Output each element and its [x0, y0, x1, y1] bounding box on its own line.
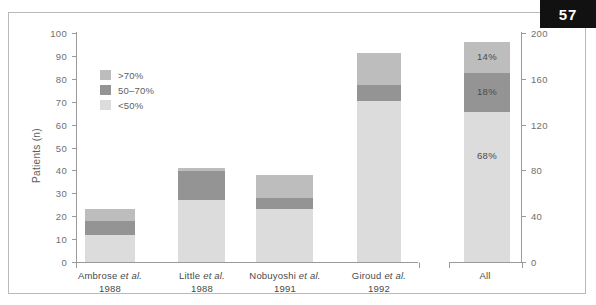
bar-all-seg-mid: 18% — [464, 73, 510, 112]
legend-label-lt50: <50% — [118, 100, 143, 111]
left-axis-line — [76, 32, 77, 263]
y-tick-80 — [72, 79, 76, 80]
bar-nobuyoshi-seg-lt50 — [256, 209, 313, 262]
bar-little — [178, 168, 225, 262]
bar-little-seg-lt50 — [178, 200, 225, 262]
bar-nobuyoshi — [256, 175, 313, 262]
legend-swatch-mid — [100, 85, 111, 95]
chart-page: 57 Patients (n) 100 90 80 70 60 50 40 30… — [0, 0, 596, 305]
legend-item-gt70: >70% — [100, 69, 154, 81]
y-tick-label-70: 70 — [41, 97, 67, 108]
y-axis-label: Patients (n) — [31, 111, 42, 201]
bar-little-seg-mid — [178, 171, 225, 200]
y2-tick-200 — [522, 33, 526, 34]
y-tick-20 — [72, 216, 76, 217]
bar-giroud-seg-mid — [357, 85, 401, 101]
xcat-nobuyoshi-name: Nobuyoshi et al. — [233, 270, 337, 283]
y-tick-50 — [72, 148, 76, 149]
legend-label-gt70: >70% — [118, 70, 143, 81]
legend-label-mid: 50–70% — [118, 85, 154, 96]
y2-tick-120 — [522, 125, 526, 126]
y2-tick-label-40: 40 — [531, 211, 561, 222]
bar-ambrose-seg-lt50 — [85, 235, 135, 262]
bar-all-seg-lt50: 68% — [464, 112, 510, 262]
bar-giroud-seg-lt50 — [357, 101, 401, 262]
y-tick-label-40: 40 — [41, 165, 67, 176]
legend-item-lt50: <50% — [100, 99, 154, 111]
y-tick-40 — [72, 170, 76, 171]
bracket-all — [449, 262, 523, 268]
legend-item-mid: 50–70% — [100, 84, 154, 96]
y-tick-100 — [72, 33, 76, 34]
xcat-nobuyoshi-year: 1991 — [233, 283, 337, 296]
y-tick-label-60: 60 — [41, 120, 67, 131]
y2-tick-40 — [522, 216, 526, 217]
bar-all-label-lt50: 68% — [464, 150, 510, 161]
bar-all: 14% 18% 68% — [464, 42, 510, 262]
bar-giroud — [357, 53, 401, 262]
bar-nobuyoshi-seg-gt70 — [256, 175, 313, 198]
xcat-ambrose: Ambrose et al. 1988 — [60, 270, 160, 295]
right-axis-line — [521, 32, 522, 263]
y-tick-label-10: 10 — [41, 234, 67, 245]
y2-tick-label-200: 200 — [531, 28, 561, 39]
xcat-ambrose-year: 1988 — [60, 283, 160, 296]
legend-swatch-gt70 — [100, 70, 111, 80]
y-tick-label-20: 20 — [41, 211, 67, 222]
bar-giroud-seg-gt70 — [357, 53, 401, 85]
y2-tick-label-160: 160 — [531, 74, 561, 85]
bar-all-label-mid: 18% — [464, 86, 510, 97]
y-tick-60 — [72, 125, 76, 126]
y2-tick-label-80: 80 — [531, 165, 561, 176]
y-tick-70 — [72, 102, 76, 103]
bracket-studies — [76, 262, 420, 268]
y2-tick-80 — [522, 170, 526, 171]
bar-ambrose-seg-gt70 — [85, 209, 135, 221]
y-tick-label-100: 100 — [41, 28, 67, 39]
bar-ambrose — [85, 209, 135, 262]
y-tick-label-50: 50 — [41, 143, 67, 154]
y-tick-label-80: 80 — [41, 74, 67, 85]
xcat-ambrose-name: Ambrose et al. — [60, 270, 160, 283]
y-tick-label-90: 90 — [41, 51, 67, 62]
bar-all-seg-gt70: 14% — [464, 42, 510, 73]
legend-swatch-lt50 — [100, 100, 111, 110]
y-tick-30 — [72, 193, 76, 194]
xcat-giroud-name: Giroud et al. — [328, 270, 430, 283]
y2-tick-label-0: 0 — [531, 257, 561, 268]
y-tick-10 — [72, 239, 76, 240]
y2-tick-label-120: 120 — [531, 120, 561, 131]
bar-ambrose-seg-mid — [85, 221, 135, 235]
bar-nobuyoshi-seg-mid — [256, 198, 313, 209]
xcat-all: All — [449, 270, 521, 283]
legend: >70% 50–70% <50% — [100, 69, 154, 114]
plot-area: Patients (n) 100 90 80 70 60 50 40 30 20… — [0, 0, 596, 305]
y-tick-label-30: 30 — [41, 188, 67, 199]
bar-all-label-gt70: 14% — [464, 51, 510, 62]
xcat-giroud: Giroud et al. 1992 — [328, 270, 430, 295]
y-tick-90 — [72, 56, 76, 57]
xcat-nobuyoshi: Nobuyoshi et al. 1991 — [233, 270, 337, 295]
xcat-all-name: All — [449, 270, 521, 283]
xcat-giroud-year: 1992 — [328, 283, 430, 296]
y2-tick-160 — [522, 79, 526, 80]
y-tick-label-0: 0 — [41, 257, 67, 268]
